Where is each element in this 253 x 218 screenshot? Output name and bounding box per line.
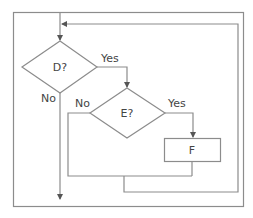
e-yes-label: Yes — [167, 97, 186, 110]
process-f-label: F — [189, 144, 195, 157]
d-yes-arrow — [97, 67, 127, 87]
e-no-label: No — [75, 97, 90, 110]
decision-d: D? — [22, 41, 97, 93]
decision-e: E? — [90, 88, 165, 138]
decision-d-label: D? — [53, 61, 67, 74]
e-yes-arrow — [165, 113, 193, 137]
d-yes-label: Yes — [100, 52, 119, 65]
d-no-label: No — [41, 92, 56, 105]
flowchart-canvas: D? Yes No E? No Yes F — [0, 0, 253, 218]
decision-e-label: E? — [121, 107, 134, 120]
process-f: F — [165, 139, 221, 162]
